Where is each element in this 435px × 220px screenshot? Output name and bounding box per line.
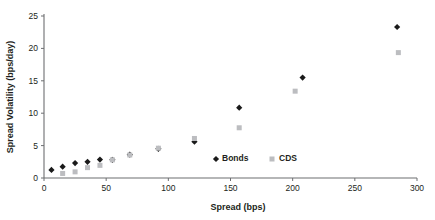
x-tick-label: 300: [410, 183, 424, 193]
y-tick-label: 10: [29, 108, 39, 118]
x-tick-label: 150: [223, 183, 237, 193]
data-point-cds: [293, 89, 298, 94]
y-tick-label: 5: [33, 141, 38, 151]
data-point-cds: [85, 165, 90, 170]
data-point-cds: [110, 157, 115, 162]
x-axis-title: Spread (bps): [210, 202, 265, 212]
data-point-cds: [73, 169, 78, 174]
plot-background: [0, 0, 435, 220]
x-tick-label: 200: [286, 183, 300, 193]
data-point-cds: [127, 152, 132, 157]
x-tick-label: 250: [348, 183, 362, 193]
y-tick-label: 15: [29, 76, 39, 86]
x-tick-label: 50: [101, 183, 111, 193]
legend-label-cds: CDS: [279, 153, 297, 163]
y-tick-label: 20: [29, 43, 39, 53]
y-tick-label: 25: [29, 11, 39, 21]
y-tick-label: 0: [33, 173, 38, 183]
data-point-cds: [192, 136, 197, 141]
data-point-cds: [60, 171, 65, 176]
legend-label-bonds: Bonds: [222, 153, 249, 163]
legend-marker-cds: [270, 157, 275, 162]
data-point-cds: [97, 163, 102, 168]
y-axis-title: Spread Volatility (bps/day): [5, 41, 15, 153]
chart-figure: 0510152025 050100150200250300 BondsCDS S…: [0, 0, 435, 220]
x-tick-label: 100: [161, 183, 175, 193]
data-point-cds: [237, 125, 242, 130]
x-tick-label: 0: [42, 183, 47, 193]
data-point-cds: [396, 50, 401, 55]
data-point-cds: [156, 146, 161, 151]
scatter-plot: 0510152025 050100150200250300 BondsCDS S…: [0, 0, 435, 220]
